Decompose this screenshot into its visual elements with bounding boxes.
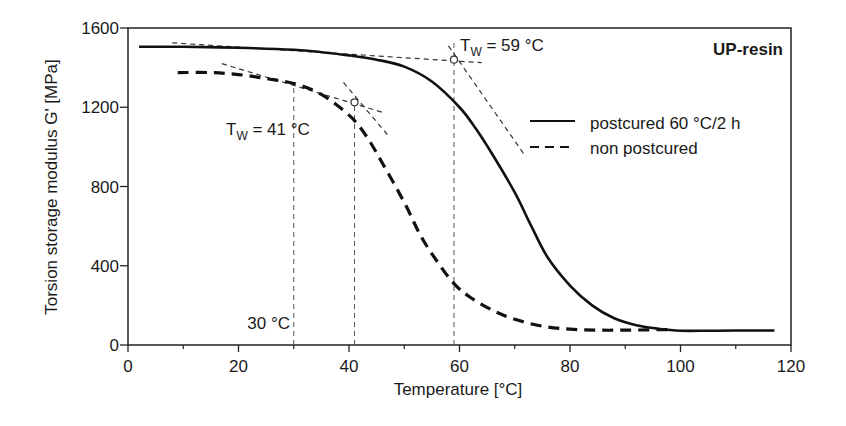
tangent-line xyxy=(343,82,387,135)
x-tick-label: 20 xyxy=(229,357,248,376)
x-tick-label: 100 xyxy=(666,357,694,376)
x-axis-label: Temperature [°C] xyxy=(394,380,523,399)
annotation-30c: 30 °C xyxy=(247,314,290,333)
legend: postcured 60 °C/2 h non postcured xyxy=(530,114,740,158)
y-tick-label: 400 xyxy=(91,257,119,276)
legend-dashed-label: non postcured xyxy=(590,139,698,158)
data-curves xyxy=(139,47,774,331)
y-tick-label: 0 xyxy=(110,336,119,355)
annotation-tw-59: TW = 59 °C xyxy=(460,36,544,59)
tangent-line xyxy=(448,46,525,157)
plot-frame xyxy=(128,28,791,345)
x-tick-label: 60 xyxy=(450,357,469,376)
annotation-tw-41: TW = 41 °C xyxy=(226,120,310,143)
plot-axes: 020406080100120040080012001600 xyxy=(81,19,805,376)
y-tick-label: 1200 xyxy=(81,98,119,117)
y-axis-label: Torsion storage modulus G' [MPa] xyxy=(42,59,61,315)
y-tick-label: 800 xyxy=(91,178,119,197)
intersection-marker xyxy=(351,99,358,106)
x-tick-label: 0 xyxy=(123,357,132,376)
y-tick-label: 1600 xyxy=(81,19,119,38)
chart-title: UP-resin xyxy=(713,40,783,59)
legend-solid-label: postcured 60 °C/2 h xyxy=(590,114,740,133)
x-tick-label: 40 xyxy=(340,357,359,376)
intersection-marker xyxy=(450,56,457,63)
chart: 020406080100120040080012001600 UP-resin … xyxy=(0,0,846,426)
x-tick-label: 80 xyxy=(561,357,580,376)
non-postcured-curve xyxy=(178,72,670,330)
x-tick-label: 120 xyxy=(777,357,805,376)
tangent-line xyxy=(222,64,382,113)
